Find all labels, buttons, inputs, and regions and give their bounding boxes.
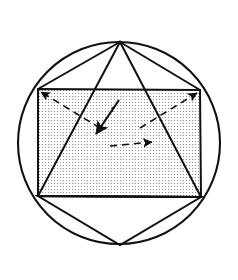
geometry-figure: r	[0, 0, 238, 280]
inscribed-square-fill	[38, 89, 201, 197]
apex-rays-layer	[38, 42, 200, 90]
figure-labels-layer: r	[111, 102, 115, 114]
radius-label-r: r	[111, 102, 115, 114]
square-fill-layer	[38, 89, 201, 197]
lower-triangle-outline	[38, 196, 201, 245]
figure-canvas: r	[0, 0, 238, 280]
